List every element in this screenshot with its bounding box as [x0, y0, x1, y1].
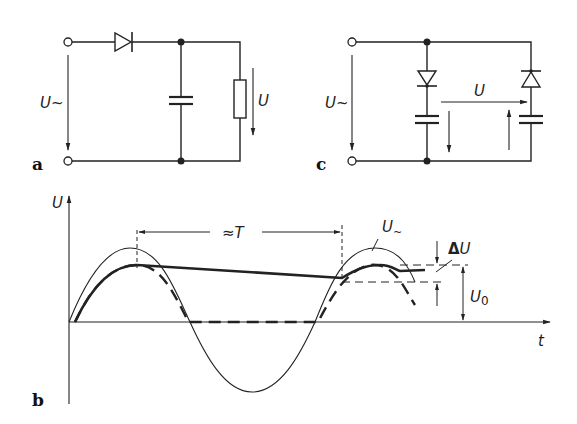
circuit-c: U~ U c: [316, 38, 543, 174]
half-wave-dashed-curve: [75, 265, 415, 322]
diode-icon: [417, 42, 437, 161]
input-terminal-bottom: [348, 157, 356, 165]
x-axis-label: t: [538, 332, 545, 350]
ripple-label: ΔU: [448, 240, 471, 258]
capacitor-icon: [415, 116, 439, 123]
output-voltage-label: U: [258, 92, 269, 110]
dc-level-label: U0: [470, 288, 489, 308]
input-terminal-top: [348, 38, 356, 46]
circuit-a: U~ U a: [32, 32, 269, 174]
diode-icon: [115, 32, 132, 52]
panel-label-b: b: [32, 390, 44, 410]
panel-label-c: c: [316, 154, 326, 174]
input-voltage-label: U~: [40, 94, 64, 112]
input-terminal-top: [64, 38, 72, 46]
circuit-a-wires: [72, 42, 240, 161]
panel-label-a: a: [32, 154, 43, 174]
ripple-label-leader: [436, 260, 452, 272]
waveform-plot-b: U t b ≈T U~ ΔU U0: [32, 194, 550, 410]
source-label-leader: [372, 239, 378, 251]
source-sine-curve: [69, 248, 415, 392]
filtered-output-curve: [75, 265, 425, 322]
y-axis-label: U: [52, 194, 63, 212]
resistor-icon: [234, 80, 246, 118]
capacitor-icon: [169, 42, 193, 161]
input-voltage-label: U~: [325, 94, 349, 112]
diode-icon: [521, 69, 541, 87]
source-label: U~: [382, 218, 402, 239]
output-voltage-label: U: [474, 82, 485, 100]
period-label: ≈T: [222, 224, 246, 242]
capacitor-icon: [519, 116, 543, 123]
rectifier-figure: U~ U a U~: [0, 0, 577, 424]
input-terminal-bottom: [64, 157, 72, 165]
